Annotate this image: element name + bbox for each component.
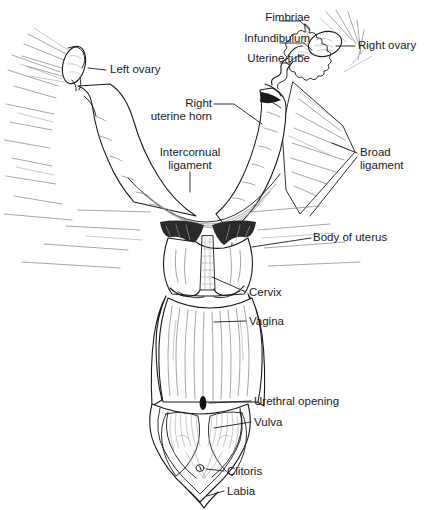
label-vulva: Vulva [254, 416, 304, 429]
anatomical-figure: .ol{fill:none;stroke:#1a1a1a;stroke-widt… [0, 0, 435, 510]
vagina [151, 294, 264, 406]
label-clitoris: Clitoris [227, 465, 283, 478]
label-uterine-tube: Uterine tube [210, 52, 310, 65]
broad-ligament-left [4, 55, 72, 220]
label-fimbriae: Fimbriae [232, 11, 310, 24]
label-urethral-opening: Urethral opening [254, 395, 364, 408]
label-cervix: Cervix [249, 286, 299, 299]
label-labia: Labia [227, 485, 277, 498]
label-broad-ligament: Broad ligament [360, 146, 432, 172]
label-right-ovary: Right ovary [358, 39, 434, 52]
tract-illustration: .ol{fill:none;stroke:#1a1a1a;stroke-widt… [0, 0, 435, 510]
label-infundibulum: Infundibulum [207, 32, 310, 45]
label-right-uterine-horn: Right uterine horn [150, 97, 212, 123]
urethral-opening [200, 396, 207, 410]
label-vagina: Vagina [249, 315, 299, 328]
label-left-ovary: Left ovary [110, 63, 182, 76]
body-of-uterus [160, 221, 256, 296]
left-ovary-group [22, 28, 89, 91]
label-intercornual-ligament: Intercornual ligament [142, 146, 238, 172]
label-body-of-uterus: Body of uterus [313, 231, 413, 244]
